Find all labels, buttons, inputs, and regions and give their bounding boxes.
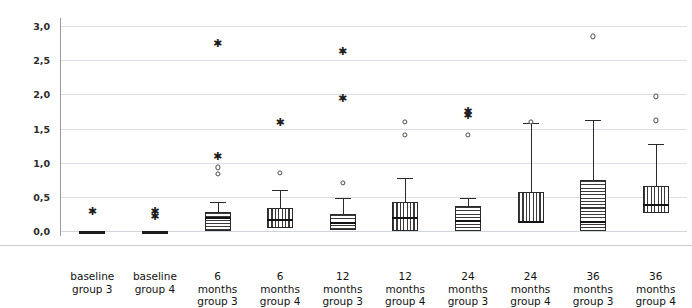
upper-whisker-cap bbox=[397, 178, 413, 179]
x-axis-category-label-line: group 4 bbox=[499, 295, 562, 308]
median-line bbox=[455, 220, 481, 222]
outlier-asterisk: ✱ bbox=[213, 38, 222, 49]
y-axis-tick-label: 0,5 bbox=[20, 191, 50, 202]
flat-box-marker bbox=[142, 231, 168, 234]
x-axis-line bbox=[0, 245, 692, 246]
gridline bbox=[61, 60, 687, 61]
x-axis-category-label-line: group 4 bbox=[374, 295, 437, 308]
x-axis-category-label-line: months bbox=[249, 283, 312, 296]
x-axis-category-label-line: group 3 bbox=[186, 295, 249, 308]
x-axis-category-label: baselinegroup 3 bbox=[61, 270, 124, 295]
upper-whisker bbox=[656, 144, 657, 186]
x-axis-category-label-line: 6 bbox=[186, 270, 249, 283]
outlier-circle bbox=[653, 118, 658, 123]
flat-box-marker bbox=[79, 231, 105, 234]
x-axis-category-label: 36monthsgroup 4 bbox=[624, 270, 687, 308]
median-line bbox=[330, 222, 356, 224]
y-axis-tick-label: 3,0 bbox=[20, 21, 50, 32]
upper-whisker bbox=[593, 120, 594, 181]
y-axis-tick-label: 1,0 bbox=[20, 157, 50, 168]
box bbox=[518, 192, 544, 223]
x-axis-category-label-line: 12 bbox=[374, 270, 437, 283]
upper-whisker-cap bbox=[648, 144, 664, 145]
y-axis-tick-label: 1,5 bbox=[20, 123, 50, 134]
upper-whisker bbox=[343, 198, 344, 214]
x-axis-category-label-line: group 3 bbox=[61, 283, 124, 296]
upper-whisker bbox=[468, 198, 469, 207]
upper-whisker bbox=[218, 202, 219, 212]
upper-whisker-cap bbox=[585, 120, 601, 121]
outlier-circle bbox=[403, 132, 408, 137]
x-axis-category-label-line: months bbox=[437, 283, 500, 296]
x-axis-category-label-line: group 4 bbox=[249, 295, 312, 308]
x-axis-category-label-line: months bbox=[624, 283, 687, 296]
outlier-circle bbox=[653, 94, 658, 99]
outlier-circle bbox=[215, 172, 220, 177]
x-axis-category-label-line: group 3 bbox=[437, 295, 500, 308]
x-axis-category-label-line: group 4 bbox=[624, 295, 687, 308]
x-axis-category-label: 12monthsgroup 3 bbox=[311, 270, 374, 308]
x-axis-category-label-line: months bbox=[499, 283, 562, 296]
upper-whisker bbox=[280, 190, 281, 208]
x-axis-category-label-line: baseline bbox=[124, 270, 187, 283]
upper-whisker-cap bbox=[210, 202, 226, 203]
median-line bbox=[518, 221, 544, 223]
outlier-asterisk: ✱ bbox=[88, 205, 97, 216]
x-axis-category-label-line: group 3 bbox=[311, 295, 374, 308]
x-axis-category-label: 24monthsgroup 3 bbox=[437, 270, 500, 308]
upper-whisker-cap bbox=[460, 198, 476, 199]
median-line bbox=[580, 221, 606, 223]
outlier-circle bbox=[465, 132, 470, 137]
y-axis-tick-label: 0,0 bbox=[20, 226, 50, 237]
x-axis-category-label-line: baseline bbox=[61, 270, 124, 283]
y-axis-tick-label: 2,5 bbox=[20, 55, 50, 66]
box bbox=[205, 212, 231, 231]
median-line bbox=[392, 217, 418, 219]
upper-whisker-cap bbox=[272, 190, 288, 191]
x-axis-category-label: 24monthsgroup 4 bbox=[499, 270, 562, 308]
upper-whisker bbox=[405, 178, 406, 203]
outlier-asterisk: ✱ bbox=[275, 116, 284, 127]
upper-whisker-cap bbox=[335, 198, 351, 199]
x-axis-category-label-line: months bbox=[186, 283, 249, 296]
x-axis-category-label: 36monthsgroup 3 bbox=[562, 270, 625, 308]
x-axis-category-label-line: months bbox=[374, 283, 437, 296]
outlier-circle bbox=[278, 170, 283, 175]
x-axis-category-label-line: 36 bbox=[624, 270, 687, 283]
x-axis-category-label: 12monthsgroup 4 bbox=[374, 270, 437, 308]
x-axis-category-label-line: months bbox=[311, 283, 374, 296]
outlier-circle bbox=[215, 165, 220, 170]
y-axis-tick-label: 2,0 bbox=[20, 89, 50, 100]
outlier-asterisk: ✱ bbox=[338, 92, 347, 103]
outlier-asterisk: ✱ bbox=[463, 109, 472, 120]
outlier-asterisk: ✱ bbox=[213, 150, 222, 161]
outlier-circle bbox=[591, 34, 596, 39]
x-axis-category-label: 6monthsgroup 3 bbox=[186, 270, 249, 308]
x-axis-category-label-line: group 4 bbox=[124, 283, 187, 296]
x-axis-category-label-line: 24 bbox=[499, 270, 562, 283]
x-axis-category-label-line: 24 bbox=[437, 270, 500, 283]
box bbox=[643, 186, 669, 213]
median-line bbox=[643, 204, 669, 206]
x-axis-category-label-line: months bbox=[562, 283, 625, 296]
x-axis-category-label-line: 36 bbox=[562, 270, 625, 283]
x-axis-category-label-line: 12 bbox=[311, 270, 374, 283]
x-axis-category-label: 6monthsgroup 4 bbox=[249, 270, 312, 308]
gridline bbox=[61, 94, 687, 95]
median-line bbox=[205, 217, 231, 219]
outlier-circle bbox=[340, 181, 345, 186]
median-line bbox=[267, 219, 293, 221]
x-axis-category-label-line: group 3 bbox=[562, 295, 625, 308]
x-axis-category-label-line: 6 bbox=[249, 270, 312, 283]
outlier-asterisk: ✱ bbox=[338, 46, 347, 57]
gridline bbox=[61, 26, 687, 27]
outlier-circle bbox=[403, 119, 408, 124]
plot-area: 0,00,51,01,52,02,53,0✱baselinegroup 3✱✱b… bbox=[60, 18, 686, 236]
upper-whisker bbox=[531, 123, 532, 192]
outlier-asterisk: ✱ bbox=[150, 210, 159, 221]
box bbox=[455, 206, 481, 231]
x-axis-category-label: baselinegroup 4 bbox=[124, 270, 187, 295]
